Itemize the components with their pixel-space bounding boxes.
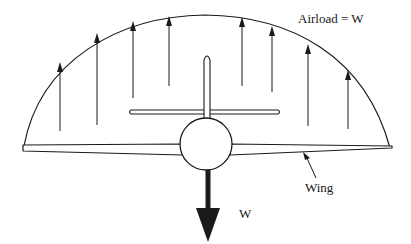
lift-arrow xyxy=(305,44,311,126)
lift-arrow xyxy=(94,33,100,125)
weight-arrow xyxy=(196,170,220,242)
wing-pointer xyxy=(303,152,316,178)
vertical-fin xyxy=(204,56,210,118)
lift-arrow xyxy=(269,26,275,92)
airload-label: Airload = W xyxy=(298,12,364,25)
lift-arrow xyxy=(345,70,351,129)
weight-label: W xyxy=(239,207,251,220)
left-wing xyxy=(23,144,183,155)
right-wing xyxy=(230,144,392,155)
wing-label: Wing xyxy=(305,181,333,194)
lift-arrow xyxy=(130,21,136,98)
lift-arrow xyxy=(166,16,172,86)
lift-arrow xyxy=(57,62,63,131)
lift-arrow xyxy=(239,17,245,86)
airload-diagram xyxy=(0,0,411,244)
fuselage xyxy=(180,118,232,170)
